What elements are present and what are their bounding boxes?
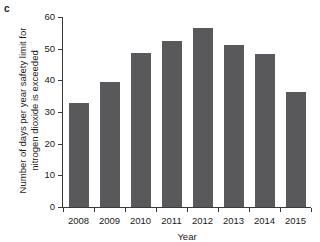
y-axis-tick-label: 30	[44, 106, 55, 117]
y-axis-title-line-1: Number of days per year safety limit for	[17, 11, 29, 211]
x-axis-tick	[218, 208, 219, 212]
y-axis-tick-label: 60	[44, 11, 55, 22]
x-axis-title: Year	[63, 231, 311, 242]
x-axis-tick	[125, 208, 126, 212]
x-axis-tick-label: 2009	[99, 215, 120, 226]
y-axis-tick: 10	[58, 175, 62, 176]
y-axis-tick-label: 40	[44, 74, 55, 85]
x-axis-tick-label: 2014	[254, 215, 275, 226]
y-axis-line	[62, 17, 63, 207]
x-axis-tick	[94, 208, 95, 212]
y-axis-tick: 30	[58, 112, 62, 113]
bar	[286, 92, 306, 207]
x-axis-tick	[311, 208, 312, 212]
x-axis-tick	[249, 208, 250, 212]
x-axis-tick-label: 2013	[223, 215, 244, 226]
y-axis-title: Number of days per year safety limit for…	[17, 11, 40, 211]
figure-panel-c: c Number of days per year safety limit f…	[0, 0, 320, 242]
x-axis-tick-label: 2012	[192, 215, 213, 226]
bar	[100, 82, 120, 207]
bar	[224, 45, 244, 207]
bar	[162, 41, 182, 207]
bar	[69, 103, 89, 207]
y-axis-tick-label: 10	[44, 169, 55, 180]
x-axis-tick	[63, 208, 64, 212]
y-axis-tick: 40	[58, 80, 62, 81]
x-axis-tick-label: 2015	[285, 215, 306, 226]
y-axis-title-line-2: nitrogen dioxide is exceeded	[28, 11, 40, 211]
bar	[255, 54, 275, 207]
y-axis-tick: 0	[58, 207, 62, 208]
x-axis-tick	[187, 208, 188, 212]
bar	[131, 53, 151, 207]
x-axis-tick	[156, 208, 157, 212]
y-axis-tick: 20	[58, 144, 62, 145]
y-axis-tick-label: 20	[44, 138, 55, 149]
bar	[193, 28, 213, 207]
y-axis-tick: 50	[58, 49, 62, 50]
panel-label: c	[4, 4, 10, 14]
y-axis-tick-label: 50	[44, 43, 55, 54]
x-axis-tick-label: 2011	[161, 215, 181, 226]
plot-area: 0102030405060 20082009201020112012201320…	[63, 17, 311, 207]
y-axis-tick: 60	[58, 17, 62, 18]
y-axis-tick-label: 0	[50, 201, 55, 212]
x-axis-tick-label: 2008	[68, 215, 89, 226]
x-axis-tick-label: 2010	[130, 215, 151, 226]
x-axis-tick	[280, 208, 281, 212]
